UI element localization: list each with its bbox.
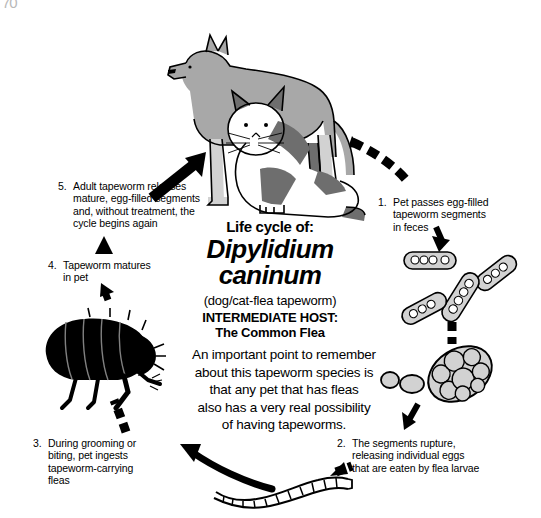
step-2-caption: 2. The segments rupture, releasing indiv… bbox=[337, 437, 532, 474]
step-5-line-3: and, without treatment, the bbox=[73, 205, 223, 217]
step-4-caption: 4. Tapeworm matures in pet bbox=[48, 259, 188, 284]
step-4-line-1: Tapeworm matures bbox=[63, 259, 188, 271]
step-5-caption: 5. Adult tapeworm releases mature, egg-f… bbox=[58, 180, 223, 230]
proglottid-segments-illustration bbox=[398, 240, 523, 330]
note-line-5: of having tapeworms. bbox=[175, 416, 393, 434]
step-4-number: 4. bbox=[48, 259, 62, 271]
step-3-line-1: During grooming or bbox=[48, 437, 183, 449]
title-species: caninum bbox=[160, 262, 380, 289]
title-common-name: (dog/cat-flea tapeworm) bbox=[160, 292, 380, 309]
arrow-flea-to-step4 bbox=[100, 283, 114, 300]
life-cycle-diagram: 70 bbox=[0, 0, 541, 518]
title-genus: Dipylidium bbox=[160, 236, 380, 262]
step-1-caption: 1. Pet passes egg-filled tapeworm segmen… bbox=[378, 196, 528, 233]
note-line-1: An important point to remember bbox=[175, 346, 393, 364]
segment-capsule-4 bbox=[399, 290, 449, 328]
note-line-3: that any pet that has fleas bbox=[175, 381, 393, 399]
flea-illustration bbox=[32, 308, 164, 408]
step-1-line-3: in feces bbox=[393, 221, 528, 233]
step-5-number: 5. bbox=[58, 180, 72, 192]
step-2-line-2: releasing individual eggs bbox=[352, 449, 532, 461]
note-line-2: about this tapeworm species is bbox=[175, 364, 393, 382]
tapeworm-body bbox=[214, 478, 352, 508]
step-5-line-4: cycle begins again bbox=[73, 217, 223, 229]
segment-capsule-1 bbox=[404, 252, 456, 269]
step-2-number: 2. bbox=[337, 437, 351, 449]
key-point-note: An important point to remember about thi… bbox=[175, 346, 393, 434]
step-5-line-1: Adult tapeworm releases bbox=[73, 180, 223, 192]
intermediate-host-value: The Common Flea bbox=[160, 325, 380, 340]
adult-tapeworm-illustration bbox=[212, 470, 352, 510]
step-1-line-1: Pet passes egg-filled bbox=[393, 196, 528, 208]
flea-body bbox=[46, 308, 166, 408]
title-block: Life cycle of: Dipylidium caninum (dog/c… bbox=[160, 218, 380, 340]
segment-capsule-2 bbox=[473, 252, 520, 294]
step-3-line-2: biting, pet ingests bbox=[48, 449, 183, 461]
ruptured-segment-eggs-illustration bbox=[388, 336, 513, 416]
intermediate-host-label: INTERMEDIATE HOST: bbox=[160, 310, 380, 325]
step-4-line-2: in pet bbox=[63, 271, 188, 283]
step-1-line-2: tapeworm segments bbox=[393, 208, 528, 220]
step-3-line-4: fleas bbox=[48, 474, 183, 486]
step-5-line-2: mature, egg-filled segments bbox=[73, 192, 223, 204]
step-3-number: 3. bbox=[33, 437, 47, 449]
step-1-number: 1. bbox=[378, 196, 392, 208]
step-3-caption: 3. During grooming or biting, pet ingest… bbox=[33, 437, 183, 487]
step-3-line-3: tapeworm-carrying bbox=[48, 462, 183, 474]
step-2-line-3: that are eaten by flea larvae bbox=[352, 462, 532, 474]
note-line-4: also has a very real possibility bbox=[175, 399, 393, 417]
step-2-line-1: The segments rupture, bbox=[352, 437, 532, 449]
